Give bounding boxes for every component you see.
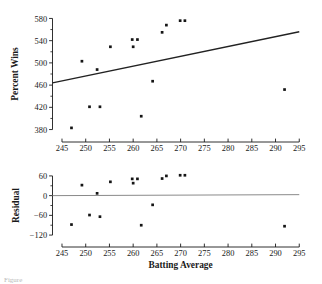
x-tick-label: 275 [198,249,211,258]
data-point [151,80,154,83]
x-tick-label: 290 [269,249,282,258]
y-tick-label: 460 [35,81,48,90]
y-tick-label: 420 [35,103,48,112]
x-tick-label: 280 [222,144,235,153]
x-tick-label: 295 [293,249,306,258]
data-point [161,177,164,180]
data-point [109,45,112,48]
y-axis-title: Residual [11,188,21,223]
figure-caption-strip: Figure [0,276,322,284]
data-point [132,182,135,185]
data-point [88,105,91,108]
data-point [70,127,73,130]
data-point [109,180,112,183]
y-tick-label: 60 [39,172,47,181]
data-point [165,24,168,27]
data-point [140,115,143,118]
zero-residual-line [53,195,300,196]
x-tick-label: 260 [127,249,140,258]
data-point [161,31,164,34]
y-tick-label: −120 [30,231,47,240]
data-point [140,224,143,227]
regression-line [53,32,300,83]
y-tick-label: 580 [35,15,48,24]
x-tick-label: 265 [151,144,164,153]
data-point [283,88,286,91]
data-point [184,19,187,22]
x-tick-label: 270 [174,144,187,153]
y-tick-label: 380 [35,126,48,135]
x-axis-title: Batting Average [149,260,213,270]
panel-bottom: −120−60060245250255260265270275280285290… [11,172,306,270]
data-point [132,45,135,48]
data-point [96,192,99,195]
x-tick-label: 255 [103,249,116,258]
x-tick-label: 245 [56,249,69,258]
y-tick-label: 540 [35,37,48,46]
x-tick-label: 290 [269,144,282,153]
data-point [179,19,182,22]
x-tick-label: 270 [174,249,187,258]
two-panel-scatter-figure: 3804204605005405802452502552602652702752… [0,0,322,284]
data-point [99,105,102,108]
x-tick-label: 275 [198,144,211,153]
data-point [99,215,102,218]
panel-top: 3804204605005405802452502552602652702752… [10,15,306,154]
x-tick-label: 255 [103,144,116,153]
figure-caption: Figure [0,276,322,284]
data-point [81,60,84,63]
data-point [151,203,154,206]
figure-container: 3804204605005405802452502552602652702752… [0,0,322,284]
data-point [131,38,134,41]
x-tick-label: 250 [79,144,92,153]
data-point [165,175,168,178]
y-tick-label: −60 [34,211,47,220]
x-tick-label: 285 [246,144,259,153]
x-tick-label: 285 [246,249,259,258]
x-tick-label: 260 [127,144,140,153]
x-tick-label: 265 [151,249,164,258]
data-point [136,178,139,181]
data-point [179,174,182,177]
y-tick-label: 0 [43,192,47,201]
y-tick-label: 500 [35,59,48,68]
data-point [96,68,99,71]
data-point [70,223,73,226]
y-axis-title: Percent Wins [10,47,20,101]
x-tick-label: 250 [79,249,92,258]
data-point [136,38,139,41]
x-tick-label: 280 [222,249,235,258]
x-tick-label: 245 [56,144,69,153]
data-point [283,225,286,228]
data-point [131,178,134,181]
x-tick-label: 295 [293,144,306,153]
data-point [81,184,84,187]
data-point [88,214,91,217]
data-point [184,174,187,177]
